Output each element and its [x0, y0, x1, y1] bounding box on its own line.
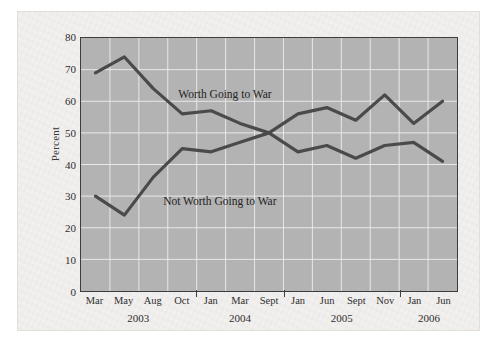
year-label-2003: 2003: [127, 312, 149, 324]
y-tick-70: 70: [50, 63, 76, 75]
x-tick-1: May: [114, 295, 133, 306]
year-label-2005: 2005: [331, 312, 353, 324]
y-tick-0: 0: [50, 286, 76, 298]
x-tick-4: Jan: [204, 295, 218, 306]
y-tick-80: 80: [50, 31, 76, 43]
y-tick-40: 40: [50, 159, 76, 171]
x-tick-10: Nov: [376, 295, 394, 306]
x-axis-tick-labels: MarMayAugOctJanMarSeptJanJunSeptNovJanJu…: [80, 295, 458, 313]
x-tick-11: Jan: [407, 295, 421, 306]
x-axis-year-labels: 2003200420052006: [80, 312, 458, 330]
y-tick-10: 10: [50, 254, 76, 266]
plot-area: [80, 37, 458, 292]
y-tick-60: 60: [50, 95, 76, 107]
x-tick-7: Jan: [291, 295, 305, 306]
series-annotation-1: Not Worth Going to War: [163, 195, 276, 207]
y-axis-tick-labels: 01020304050607080: [46, 37, 76, 292]
chart-figure: Percent 01020304050607080 Worth Going to…: [18, 12, 479, 330]
x-tick-2: Aug: [144, 295, 162, 306]
year-separator-tick-2005: [284, 290, 285, 297]
x-tick-9: Sept: [347, 295, 366, 306]
year-label-2006: 2006: [418, 312, 440, 324]
year-separator-tick-2004: [196, 290, 197, 297]
y-tick-30: 30: [50, 190, 76, 202]
x-tick-12: Jun: [436, 295, 451, 306]
y-tick-50: 50: [50, 127, 76, 139]
y-tick-20: 20: [50, 222, 76, 234]
line-chart-svg: [81, 38, 457, 291]
year-label-2004: 2004: [229, 312, 251, 324]
x-tick-3: Oct: [174, 295, 189, 306]
x-tick-5: Mar: [231, 295, 249, 306]
x-tick-0: Mar: [86, 295, 104, 306]
series-annotation-0: Worth Going to War: [178, 88, 271, 100]
x-tick-8: Jun: [320, 295, 335, 306]
x-tick-6: Sept: [260, 295, 279, 306]
year-separator-tick-2006: [400, 290, 401, 297]
